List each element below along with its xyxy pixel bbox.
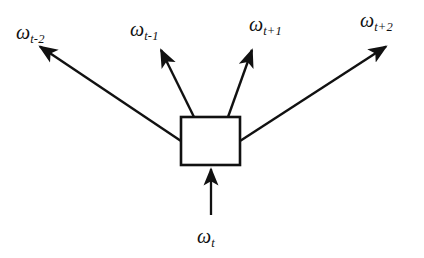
label-w-t: ωt	[197, 226, 215, 250]
omega-subscript: t-1	[144, 29, 159, 43]
arrow-w-t-minus-1	[161, 50, 194, 117]
omega-glyph: ω	[16, 21, 30, 43]
diagram-svg	[0, 0, 424, 258]
label-w-t-plus-1: ωt+1	[249, 14, 282, 38]
label-w-t-plus-2: ωt+2	[360, 10, 393, 34]
diagram-canvas: ωt-2 ωt-1 ωt+1 ωt+2 ωt	[0, 0, 424, 258]
omega-subscript: t+2	[374, 20, 393, 34]
label-w-t-minus-1: ωt-1	[130, 19, 159, 43]
label-w-t-minus-2: ωt-2	[16, 22, 45, 46]
omega-subscript: t+1	[263, 24, 282, 38]
projection-box	[181, 117, 240, 165]
omega-subscript: t-2	[30, 32, 45, 46]
omega-subscript: t	[211, 236, 215, 250]
arrow-w-t-minus-2	[40, 47, 181, 142]
omega-glyph: ω	[130, 18, 144, 40]
omega-glyph: ω	[197, 225, 211, 247]
omega-glyph: ω	[360, 9, 374, 31]
arrow-w-t-plus-2	[240, 47, 386, 142]
omega-glyph: ω	[249, 13, 263, 35]
arrow-w-t-plus-1	[228, 50, 252, 117]
